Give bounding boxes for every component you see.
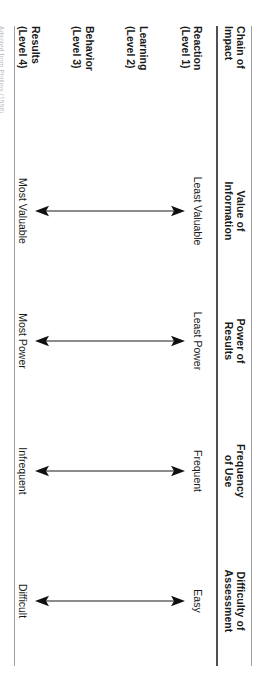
column-header-line2: Results [223, 322, 235, 361]
column-header-chain-of-impact: Chain of Impact [218, 26, 252, 146]
level-number: (Level 2) [125, 26, 137, 146]
column-header-line1: Chain of [235, 26, 247, 69]
axis-endpoint-bottom: Difficult [17, 584, 30, 618]
double-headed-arrow-icon [29, 276, 191, 406]
level-name: Behavior [83, 26, 95, 146]
axis-endpoint-bottom: Most Valuable [17, 178, 30, 244]
column-header-line2: of Use [223, 455, 235, 488]
axis-endpoint-top: Least Valuable [191, 177, 204, 246]
axis-column-power-of-results: Least Power Most Power [3, 276, 218, 406]
double-headed-arrow-icon [29, 536, 191, 666]
column-header-line2: Information [223, 182, 235, 241]
axis-endpoint-bottom: Infrequent [17, 447, 30, 494]
axis-endpoint-top: Least Power [191, 312, 204, 370]
level-item-learning: Learning (Level 2) [125, 26, 150, 146]
column-header-line1: Frequency [235, 444, 247, 498]
source-note: Adapted from Phillips (1996) [0, 26, 5, 114]
axis-endpoint-top: Frequent [191, 450, 204, 492]
level-item-behavior: Behavior (Level 3) [71, 26, 96, 146]
axis-endpoint-top: Easy [191, 589, 204, 612]
chain-of-impact-table: Chain of Impact Value of Information Pow… [14, 26, 252, 666]
levels-column: Reaction (Level 1) Learning (Level 2) Be… [3, 26, 218, 146]
column-header-frequency-of-use: Frequency of Use [218, 406, 252, 536]
axis-column-frequency-of-use: Frequent Infrequent [3, 406, 218, 536]
rotated-figure-stage: Chain of Impact Value of Information Pow… [0, 0, 262, 692]
double-headed-arrow-icon [29, 406, 191, 536]
column-header-difficulty-of-assessment: Difficulty of Assessment [218, 536, 252, 666]
level-name: Results [29, 26, 41, 146]
level-number: (Level 4) [17, 26, 29, 146]
table-grid: Chain of Impact Value of Information Pow… [14, 26, 252, 666]
axis-endpoint-bottom: Most Power [17, 313, 30, 368]
axis-column-difficulty-of-assessment: Easy Difficult [3, 536, 218, 666]
level-name: Learning [137, 26, 149, 146]
column-header-value-of-information: Value of Information [218, 146, 252, 276]
column-header-line1: Value of [235, 190, 247, 231]
column-header-power-of-results: Power of Results [218, 276, 252, 406]
level-item-reaction: Reaction (Level 1) [179, 26, 204, 146]
level-name: Reaction [192, 26, 204, 146]
level-number: (Level 1) [179, 26, 191, 146]
column-header-line2: Impact [223, 26, 235, 60]
level-item-results: Results (Level 4) [17, 26, 42, 146]
double-headed-arrow-icon [29, 146, 191, 276]
column-header-line1: Difficulty of [235, 571, 247, 630]
column-header-line1: Power of [235, 318, 247, 363]
level-number: (Level 3) [71, 26, 83, 146]
axis-column-value-of-information: Least Valuable Most Valuable [3, 146, 218, 276]
column-header-line2: Assessment [223, 570, 235, 633]
